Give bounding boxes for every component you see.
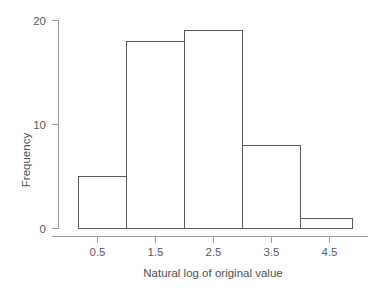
- x-tick-label-0-5: 0.5: [90, 246, 106, 258]
- histogram-figure: 20 10 0 Frequency 0.5 1.5 2.5 3.5 4.5 Na…: [0, 0, 384, 292]
- y-tick-label-20: 20: [33, 15, 46, 27]
- x-tick-label-3-5: 3.5: [264, 246, 280, 258]
- histogram-plot: 20 10 0 Frequency 0.5 1.5 2.5 3.5 4.5 Na…: [0, 0, 384, 292]
- x-tick-label-2-5: 2.5: [206, 246, 222, 258]
- y-axis-title: Frequency: [20, 133, 32, 188]
- histogram-bar: [185, 31, 243, 229]
- histogram-bar: [243, 145, 301, 228]
- histogram-bar: [78, 177, 126, 229]
- histogram-bar: [127, 41, 185, 228]
- x-tick-marks: [98, 237, 330, 244]
- histogram-bar: [301, 218, 353, 228]
- x-tick-label-1-5: 1.5: [148, 246, 164, 258]
- y-tick-marks: [52, 21, 59, 229]
- x-axis-title: Natural log of original value: [143, 267, 282, 279]
- y-tick-label-10: 10: [33, 119, 46, 131]
- x-tick-label-4-5: 4.5: [322, 246, 338, 258]
- histogram-bars: [78, 31, 352, 229]
- y-tick-label-0: 0: [40, 223, 46, 235]
